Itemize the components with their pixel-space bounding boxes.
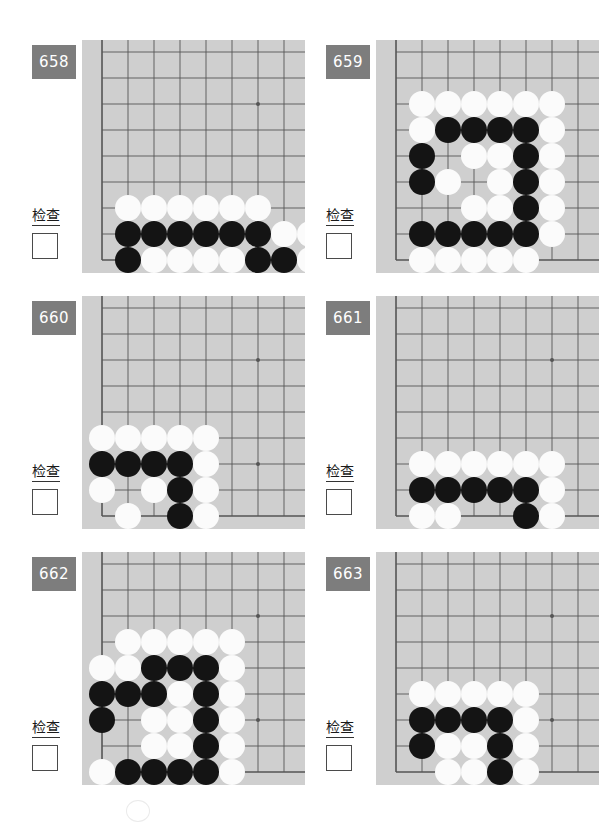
go-board[interactable] [376,40,599,273]
black-stone [89,707,115,733]
black-stone [141,451,167,477]
black-stone [435,477,461,503]
white-stone [167,733,193,759]
black-stone [167,655,193,681]
white-stone [435,733,461,759]
black-stone [167,503,193,529]
white-stone [409,91,435,117]
white-stone [461,143,487,169]
black-stone [193,707,219,733]
black-stone [409,477,435,503]
white-stone [167,425,193,451]
black-stone [89,681,115,707]
black-stone [167,451,193,477]
puzzle-side-panel: 658检查 [26,36,82,291]
black-stone [141,681,167,707]
white-stone [487,143,513,169]
white-stone [435,759,461,785]
white-stone [461,451,487,477]
puzzle-side-panel: 660检查 [26,292,82,547]
puzzle-side-panel: 659检查 [320,36,376,291]
black-stone [193,759,219,785]
white-stone [487,247,513,273]
white-stone [89,655,115,681]
check-label: 检查 [32,719,60,738]
check-control: 检查 [32,206,78,259]
black-stone [487,759,513,785]
black-stone [193,681,219,707]
white-stone [461,759,487,785]
white-stone [461,733,487,759]
black-stone [513,221,539,247]
white-stone [89,759,115,785]
go-board[interactable] [82,552,305,785]
black-stone [89,451,115,477]
white-stone [461,681,487,707]
white-stone [115,503,141,529]
white-stone [435,247,461,273]
puzzle-number-badge: 660 [32,301,76,335]
black-stone [435,707,461,733]
black-stone [513,117,539,143]
white-stone [115,629,141,655]
white-stone [193,425,219,451]
white-stone [219,629,245,655]
puzzle-659: 659检查 [320,36,608,291]
black-stone [167,759,193,785]
black-stone [409,733,435,759]
black-stone [141,759,167,785]
go-board[interactable] [376,552,599,785]
black-stone [115,451,141,477]
check-label: 检查 [326,463,354,482]
white-stone [409,451,435,477]
white-stone [435,681,461,707]
white-stone [409,503,435,529]
white-stone [461,247,487,273]
go-board[interactable] [82,296,305,529]
go-board[interactable] [82,40,305,273]
black-stone [487,477,513,503]
black-stone [167,221,193,247]
puzzle-side-panel: 662检查 [26,548,82,803]
check-checkbox[interactable] [326,489,352,515]
white-stone [435,169,461,195]
check-checkbox[interactable] [326,233,352,259]
black-stone [409,143,435,169]
white-stone [141,733,167,759]
white-stone [193,629,219,655]
white-stone [435,451,461,477]
white-stone [435,503,461,529]
black-stone [487,117,513,143]
check-label: 检查 [326,719,354,738]
white-stone [245,195,271,221]
white-stone [219,681,245,707]
check-checkbox[interactable] [32,489,58,515]
black-stone [513,195,539,221]
white-stone [487,169,513,195]
white-stone [461,195,487,221]
black-stone [409,221,435,247]
black-stone [513,143,539,169]
black-stone [141,221,167,247]
black-stone [487,733,513,759]
black-stone [245,221,271,247]
white-stone [193,451,219,477]
check-checkbox[interactable] [326,745,352,771]
white-stone [167,707,193,733]
white-stone [513,681,539,707]
black-stone [115,221,141,247]
white-stone [409,681,435,707]
check-checkbox[interactable] [32,745,58,771]
black-stone [409,707,435,733]
check-control: 检查 [32,462,78,515]
white-stone [513,707,539,733]
black-stone [513,169,539,195]
white-stone [539,91,565,117]
go-board[interactable] [376,296,599,529]
black-stone [461,477,487,503]
white-stone [539,117,565,143]
white-stone [193,247,219,273]
check-checkbox[interactable] [32,233,58,259]
puzzle-number-badge: 658 [32,45,76,79]
puzzle-side-panel: 661检查 [320,292,376,547]
